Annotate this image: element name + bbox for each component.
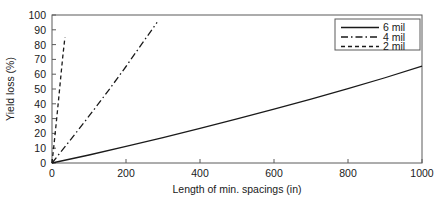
x-tick-label: 200	[117, 167, 135, 179]
x-tick-label: 800	[339, 167, 357, 179]
yield-loss-line-chart: 02004006008001000 0102030405060708090100…	[0, 0, 436, 200]
y-axis-title: Yield loss (%)	[4, 57, 16, 121]
legend-label-2-mil: 2 mil	[383, 40, 405, 52]
y-tick-label: 30	[34, 113, 46, 125]
x-tick-label: 400	[191, 167, 209, 179]
y-tick-label: 50	[34, 83, 46, 95]
x-axis-tick-labels: 02004006008001000	[49, 167, 434, 179]
y-tick-label: 100	[28, 9, 46, 21]
x-tick-label: 0	[49, 167, 55, 179]
x-tick-label: 600	[265, 167, 283, 179]
x-axis-title: Length of min. spacings (in)	[173, 183, 302, 195]
y-tick-label: 90	[34, 24, 46, 36]
y-tick-label: 0	[40, 157, 46, 169]
y-tick-label: 20	[34, 127, 46, 139]
y-tick-label: 10	[34, 142, 46, 154]
chart-figure: 02004006008001000 0102030405060708090100…	[0, 0, 436, 200]
y-tick-label: 80	[34, 39, 46, 51]
y-tick-label: 70	[34, 53, 46, 65]
y-axis-tick-labels: 0102030405060708090100	[28, 9, 46, 169]
legend: 6 mil4 mil2 mil	[335, 19, 420, 52]
y-tick-label: 60	[34, 68, 46, 80]
x-tick-label: 1000	[410, 167, 434, 179]
y-tick-label: 40	[34, 98, 46, 110]
legend-box	[335, 19, 420, 50]
